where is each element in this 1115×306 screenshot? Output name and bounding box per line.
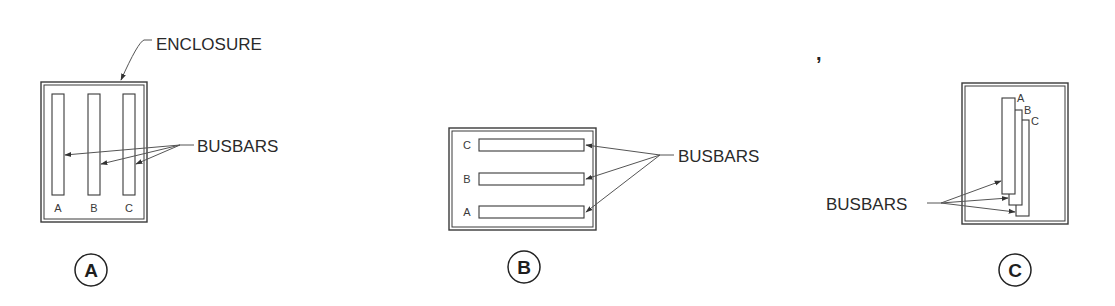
busbar-a-B xyxy=(88,94,100,195)
enclosure-label: ENCLOSURE xyxy=(156,35,262,54)
bar-label-b-B: B xyxy=(463,173,470,185)
svg-text:B: B xyxy=(517,257,531,278)
panel-badge-c: C xyxy=(999,254,1031,286)
svg-text:A: A xyxy=(84,260,98,281)
bar-label-b-C: C xyxy=(463,139,471,151)
panel-c: , A B C BUSBARS C xyxy=(816,42,1068,286)
busbar-a-A xyxy=(52,94,64,195)
busbars-leaders-b xyxy=(586,145,674,212)
panel-b: C B A BUSBARS B xyxy=(449,128,759,283)
bar-label-b-A: A xyxy=(463,206,471,218)
busbars-label-a: BUSBARS xyxy=(197,137,278,156)
busbars-label-c: BUSBARS xyxy=(826,195,907,214)
busbar-b-B xyxy=(479,173,584,185)
bar-label-a-A: A xyxy=(54,202,62,214)
svg-text:C: C xyxy=(1008,260,1022,281)
busbar-c-A xyxy=(1002,98,1015,194)
bar-label-c-A: A xyxy=(1017,92,1025,104)
busbar-b-A xyxy=(479,206,584,218)
enclosure-leader-line xyxy=(121,40,152,80)
busbar-arrangement-diagram: A B C ENCLOSURE BUSBARS A C B A xyxy=(0,0,1115,306)
stray-mark: , xyxy=(816,42,822,64)
panel-badge-b: B xyxy=(508,251,540,283)
panel-badge-a: A xyxy=(75,254,107,286)
busbar-b-C xyxy=(479,139,584,151)
bar-label-c-C: C xyxy=(1031,115,1039,127)
panel-a: A B C ENCLOSURE BUSBARS A xyxy=(41,35,278,286)
busbar-a-C xyxy=(123,94,135,195)
bar-label-a-B: B xyxy=(90,202,97,214)
busbars-label-b: BUSBARS xyxy=(678,147,759,166)
bar-label-a-C: C xyxy=(125,202,133,214)
